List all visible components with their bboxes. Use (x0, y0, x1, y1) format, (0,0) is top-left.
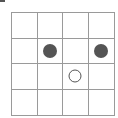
board-cell-r0-c3[interactable] (89, 13, 115, 39)
board-cell-r2-c0[interactable] (12, 64, 38, 90)
board-cell-r3-c1[interactable] (38, 90, 64, 116)
board-cell-r0-c0[interactable] (12, 13, 38, 39)
board-cell-r3-c0[interactable] (12, 90, 38, 116)
game-board (11, 12, 115, 116)
board-cell-r1-c1[interactable] (38, 39, 64, 65)
board-cell-r0-c1[interactable] (38, 13, 64, 39)
board-cell-r3-c2[interactable] (63, 90, 89, 116)
board-cell-r1-c2[interactable] (63, 39, 89, 65)
board-cell-r0-c2[interactable] (63, 13, 89, 39)
board-cell-r2-c3[interactable] (89, 64, 115, 90)
hollow-circle-icon (69, 70, 82, 83)
board-cell-r3-c3[interactable] (89, 90, 115, 116)
board-cell-r1-c0[interactable] (12, 39, 38, 65)
filled-circle-icon (43, 44, 57, 58)
corner-mark (0, 0, 5, 2)
filled-circle-icon (94, 44, 108, 58)
board-cell-r2-c2[interactable] (63, 64, 89, 90)
board-cell-r1-c3[interactable] (89, 39, 115, 65)
board-cell-r2-c1[interactable] (38, 64, 64, 90)
